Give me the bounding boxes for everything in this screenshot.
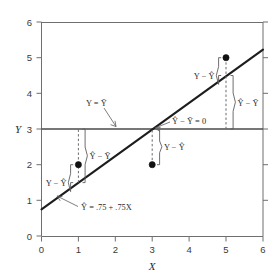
- data-point: [223, 55, 229, 61]
- y-tick-label-4: 4: [27, 88, 32, 99]
- x-tick-label-6: 6: [260, 244, 265, 255]
- regression-decomposition-figure: 6 5 4 3 2 1 0 0 1 2 3 4 5 6 Y X: [0, 0, 280, 279]
- residual-label-left: Y − Ŷ: [46, 178, 67, 188]
- zero-deviation-label: Ŷ − Ȳ = 0: [172, 116, 206, 126]
- x-axis-title: X: [148, 260, 157, 272]
- x-axis: [42, 237, 264, 242]
- y-tick-label-0: 0: [27, 231, 32, 242]
- explained-bracket-right: [231, 76, 236, 130]
- residual-label-middle: Y − Ŷ: [164, 142, 185, 152]
- explained-label-left: Ŷ − Ȳ: [90, 151, 111, 161]
- residual-bracket-middle: [157, 129, 162, 165]
- explained-label-right: Ŷ − Ȳ: [238, 98, 259, 108]
- y-tick-label-2: 2: [27, 159, 32, 170]
- x-tick-label-2: 2: [113, 244, 118, 255]
- explained-bracket-left: [83, 129, 88, 183]
- x-tick-label-1: 1: [76, 244, 81, 255]
- data-point: [149, 162, 155, 168]
- chart-canvas: 6 5 4 3 2 1 0 0 1 2 3 4 5 6 Y X: [0, 0, 280, 279]
- y-tick-label-6: 6: [27, 17, 32, 28]
- y-tick-label-1: 1: [27, 195, 32, 206]
- y-axis-title: Y: [15, 123, 23, 135]
- mean-line-label: Y = Ȳ: [86, 99, 107, 108]
- residual-label-right: Y − Ŷ: [194, 71, 215, 81]
- x-tick-label-0: 0: [39, 244, 44, 255]
- y-axis: [37, 22, 42, 236]
- equation-leader: [57, 196, 78, 207]
- mean-line-leader: [104, 108, 116, 127]
- equation-label: Ŷ = .75 + .75X: [81, 202, 132, 212]
- y-tick-label-5: 5: [27, 52, 32, 63]
- x-tick-label-5: 5: [223, 244, 228, 255]
- zero-deviation-leader: [155, 122, 170, 131]
- x-tick-label-4: 4: [186, 244, 191, 255]
- x-tick-label-3: 3: [150, 244, 155, 255]
- y-tick-label-3: 3: [27, 124, 32, 135]
- data-point: [75, 162, 81, 168]
- right-axis-ticks: [263, 22, 268, 237]
